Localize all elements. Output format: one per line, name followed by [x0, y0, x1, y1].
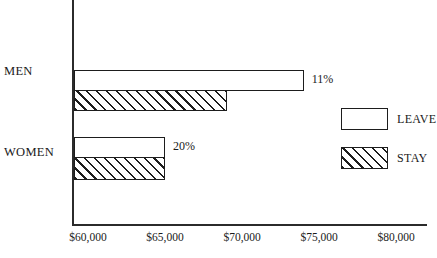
x-tick-label: $60,000: [69, 231, 106, 243]
legend-label-leave: LEAVE: [397, 112, 436, 127]
bar-women-leave: [74, 137, 165, 158]
bar-men-leave: [74, 70, 304, 91]
x-tick-label: $80,000: [377, 231, 414, 243]
legend-item-stay: STAY: [341, 147, 436, 169]
annotation-men-percent: 11%: [312, 72, 334, 87]
legend-item-leave: LEAVE: [341, 108, 436, 130]
bar-men-stay: [74, 90, 227, 111]
legend-swatch-leave-icon: [341, 108, 388, 130]
x-tick-label: $65,000: [146, 231, 183, 243]
legend: LEAVE STAY: [341, 108, 436, 186]
category-label-women: WOMEN: [4, 145, 54, 160]
x-tick-label: $70,000: [223, 231, 260, 243]
x-tick-label: $75,000: [300, 231, 337, 243]
legend-label-stay: STAY: [397, 151, 427, 166]
legend-swatch-stay-icon: [341, 147, 388, 169]
bar-chart: MEN WOMEN 11% 20% $60,000 $65,000 $70,00…: [0, 0, 437, 258]
bar-women-stay: [74, 157, 165, 180]
annotation-women-percent: 20%: [173, 139, 195, 154]
x-axis-line: [72, 224, 427, 226]
y-axis-line: [72, 0, 74, 226]
category-label-men: MEN: [4, 64, 33, 79]
